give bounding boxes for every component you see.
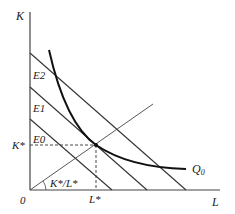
isoquant-curve	[49, 50, 186, 169]
y-axis-label: K	[15, 9, 25, 23]
ray-angle-arc	[43, 181, 46, 190]
k-star-label: K*	[11, 139, 25, 151]
origin-label: 0	[20, 194, 26, 206]
isocost-label-e2: E2	[32, 69, 46, 81]
isoquant-label: Q0	[192, 162, 205, 177]
equilibrium-point	[94, 143, 98, 147]
isocost-label-e1: E1	[32, 102, 45, 114]
x-axis-label: L	[211, 195, 219, 209]
isoquant-isocost-diagram: K L 0 E2 E1 E0 K* L* K*/L* Q0	[0, 0, 235, 214]
ray-label: K*/L*	[49, 177, 78, 189]
isocost-label-e0: E0	[32, 133, 46, 145]
isocost-line-e2	[30, 53, 186, 190]
isoquant-label-main: Q	[192, 162, 201, 176]
l-star-label: L*	[88, 193, 101, 205]
isoquant-label-subscript: 0	[201, 168, 205, 177]
expansion-ray	[30, 104, 153, 190]
